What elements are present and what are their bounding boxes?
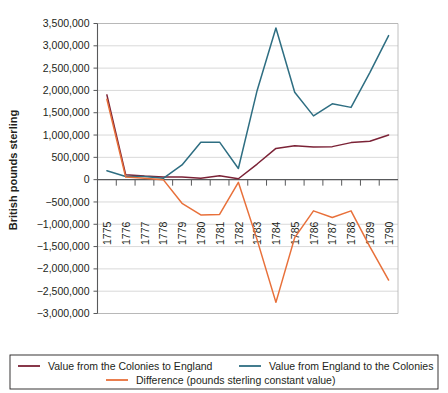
x-tick-label: 1779 <box>176 221 188 245</box>
y-tick-label: −1,000,000 <box>37 218 90 230</box>
y-axis-ticks: 3,500,0003,000,0002,500,0002,000,0001,50… <box>37 17 98 319</box>
x-tick-label: 1789 <box>364 221 376 245</box>
x-tick-label: 1782 <box>233 221 245 245</box>
x-tick-label: 1776 <box>120 221 132 245</box>
x-tick-label: 1790 <box>383 221 395 245</box>
plot-frame <box>98 24 399 314</box>
y-tick-label: 2,000,000 <box>43 84 90 96</box>
line-chart: 3,500,0003,000,0002,500,0002,000,0001,50… <box>0 0 448 393</box>
y-tick-label: 1,000,000 <box>43 129 90 141</box>
x-axis-ticks: 1775177617771778177917801781178217831784… <box>98 180 395 245</box>
x-tick-label: 1777 <box>139 221 151 245</box>
y-axis-title: British pounds sterling <box>7 110 19 230</box>
y-tick-label: 500,000 <box>52 151 90 163</box>
chart-figure: 3,500,0003,000,0002,500,0002,000,0001,50… <box>0 0 448 393</box>
x-tick-label: 1778 <box>157 221 169 245</box>
x-tick-label: 1780 <box>195 221 207 245</box>
legend-item-label: Difference (pounds sterling constant val… <box>136 374 335 386</box>
y-tick-label: −1,500,000 <box>37 240 90 252</box>
x-tick-label: 1784 <box>270 221 282 245</box>
legend-item-label: Value from the Colonies to England <box>48 360 213 372</box>
y-tick-label: 3,000,000 <box>43 39 90 51</box>
y-tick-label: 0 <box>84 173 90 185</box>
y-tick-label: −500,000 <box>45 196 89 208</box>
plot-border <box>98 24 399 314</box>
x-tick-label: 1788 <box>345 221 357 245</box>
y-tick-label: 2,500,000 <box>43 62 90 74</box>
y-tick-label: 3,500,000 <box>43 17 90 29</box>
y-tick-label: −2,500,000 <box>37 285 90 297</box>
y-tick-label: 1,500,000 <box>43 106 90 118</box>
x-tick-label: 1781 <box>214 221 226 245</box>
y-tick-label: −3,000,000 <box>37 307 90 319</box>
chart-legend: Value from the Colonies to EnglandValue … <box>10 355 438 389</box>
x-tick-label: 1785 <box>289 221 301 245</box>
data-series <box>107 28 389 302</box>
x-tick-label: 1775 <box>101 221 113 245</box>
series-line-2 <box>107 28 389 178</box>
legend-item-label: Value from England to the Colonies <box>269 360 433 372</box>
series-line-1 <box>107 95 389 179</box>
y-tick-label: −2,000,000 <box>37 262 90 274</box>
x-tick-label: 1787 <box>326 221 338 245</box>
gridlines <box>98 24 399 314</box>
x-tick-label: 1786 <box>308 221 320 245</box>
